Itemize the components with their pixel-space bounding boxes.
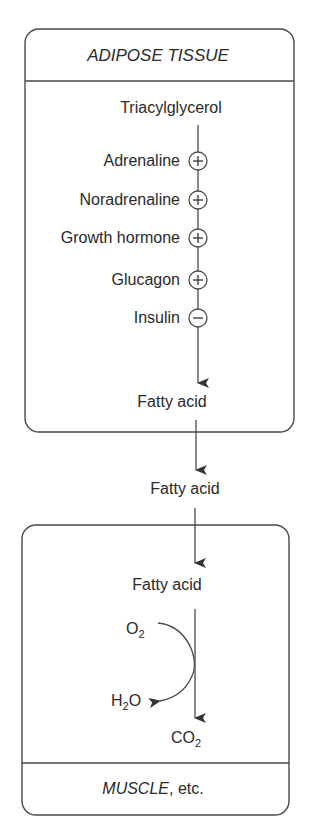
carbon-dioxide-label: CO2: [171, 729, 201, 752]
plus-circle-icon: [189, 191, 207, 209]
muscle-title: MUSCLE, etc.: [102, 780, 203, 798]
muscle-fatty-acid-label: Fatty acid: [132, 576, 201, 594]
minus-circle-icon: [189, 309, 207, 327]
triacylglycerol-label: Triacylglycerol: [120, 99, 222, 117]
plus-circle-icon: [189, 152, 207, 170]
plus-circle-icon: [189, 271, 207, 289]
regulator-insulin: Insulin: [134, 309, 180, 327]
adipose-fatty-acid-label: Fatty acid: [137, 393, 206, 411]
diagram-canvas: [0, 0, 312, 836]
oxygen-label: O2: [126, 620, 145, 643]
adipose-tissue-title: ADIPOSE TISSUE: [87, 47, 229, 65]
blood-fatty-acid-label: Fatty acid: [150, 480, 219, 498]
regulator-glucagon: Glucagon: [112, 271, 181, 289]
plus-circle-icon: [189, 229, 207, 247]
arrow-o2-to-h2o: [158, 623, 194, 701]
regulator-noradrenaline: Noradrenaline: [79, 191, 180, 209]
muscle-box: [22, 525, 289, 815]
regulator-adrenaline: Adrenaline: [104, 152, 181, 170]
regulator-growth-hormone: Growth hormone: [61, 229, 180, 247]
water-label: H2O: [111, 692, 141, 715]
